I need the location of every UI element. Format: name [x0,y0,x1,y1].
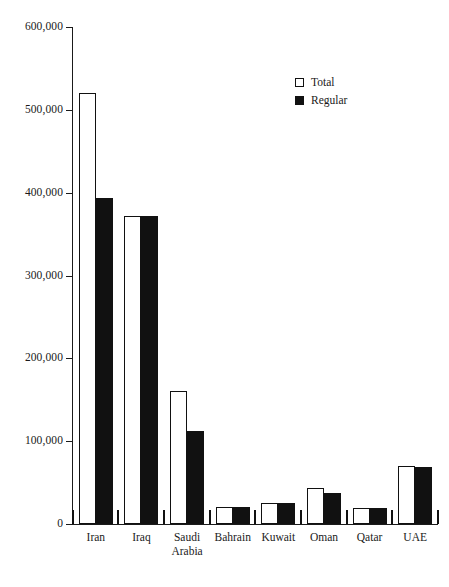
x-axis-label: Iraq [119,530,165,544]
bar-regular [278,503,295,524]
bar-regular [233,507,250,524]
bar-regular [415,467,432,524]
bar-total [216,507,233,524]
bar-total [307,488,324,524]
x-axis-label-line: Saudi [174,531,200,543]
bar-regular [96,198,113,524]
x-axis-label-line: Arabia [164,544,210,558]
x-axis-label-line: Qatar [357,531,383,543]
y-axis-tick-label: 500,000 [25,104,63,116]
bar-total [261,503,278,524]
x-axis-label: Bahrain [210,530,256,544]
x-axis-labels: IranIraqSaudiArabiaBahrainKuwaitOmanQata… [73,530,438,580]
x-axis-separator-tick [391,510,393,524]
bar-total [124,216,141,524]
legend-label-regular: Regular [311,92,347,108]
y-axis-tick [66,276,73,277]
y-axis-tick [66,110,73,111]
bar-regular [370,508,387,524]
bar-group [392,27,438,524]
bar-regular [187,431,204,524]
x-axis-label: UAE [392,530,438,544]
bar-group [73,27,119,524]
bar-group [347,27,393,524]
x-axis-label: Qatar [347,530,393,544]
x-axis-label: Iran [73,530,119,544]
x-axis-label-line: Kuwait [261,531,295,543]
legend-swatch-total-icon [295,78,304,87]
legend-label-total: Total [311,74,334,90]
legend-item-regular: Regular [295,92,347,108]
bar-total [170,391,187,524]
legend-item-total: Total [295,74,347,90]
y-axis-tick [66,441,73,442]
x-axis-separator-tick [163,510,165,524]
x-axis-separator-tick [300,510,302,524]
bar-group [119,27,165,524]
x-axis-separator-tick [254,510,256,524]
bar-total [398,466,415,524]
y-axis-tick [66,27,73,28]
x-axis-label: SaudiArabia [164,530,210,558]
y-axis-tick-label: 200,000 [25,352,63,364]
bar-group [164,27,210,524]
x-axis-separator-tick [209,510,211,524]
legend-swatch-regular-icon [295,96,304,105]
bar-regular [141,216,158,524]
x-axis-label-line: Iraq [132,531,151,543]
y-axis-tick-label: 600,000 [25,21,63,33]
x-axis-line [72,524,438,525]
bar-chart: 0100,000200,000300,000400,000500,000600,… [0,0,449,587]
x-axis-label: Kuwait [256,530,302,544]
bar-regular [324,493,341,524]
x-axis-separator-tick [346,510,348,524]
x-axis-separator-tick [117,510,119,524]
x-axis-separator-tick [72,510,74,524]
y-axis-tick-label: 100,000 [25,435,63,447]
bar-groups [73,27,438,524]
y-axis-tick-label: 300,000 [25,270,63,282]
y-axis-tick-label: 400,000 [25,187,63,199]
y-axis-tick [66,193,73,194]
bar-total [79,93,96,524]
y-axis-tick [66,358,73,359]
chart-legend: Total Regular [295,74,347,110]
x-axis-label: Oman [301,530,347,544]
bar-total [353,508,370,524]
y-axis-tick-label: 0 [57,518,63,530]
x-axis-label-line: Iran [87,531,106,543]
bar-group [210,27,256,524]
x-axis-label-line: Bahrain [214,531,250,543]
x-axis-separator-tick [437,510,439,524]
x-axis-label-line: Oman [310,531,338,543]
x-axis-label-line: UAE [403,531,427,543]
